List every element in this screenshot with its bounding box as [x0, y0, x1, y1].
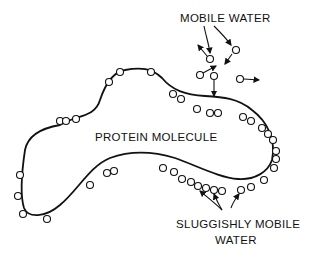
- sluggish-water-label-line1: SLUGGISHLY MOBILE: [176, 218, 300, 230]
- protein-water-diagram: MOBILE WATER PROTEIN MOLECULE SLUGGISHLY…: [0, 0, 318, 266]
- motion-arrows: [198, 45, 259, 96]
- sluggish-water-label-line2: WATER: [215, 234, 257, 246]
- label-pointers: [200, 26, 239, 210]
- bound-water-molecules: [15, 69, 280, 223]
- mobile-water-label: MOBILE WATER: [180, 12, 271, 24]
- protein-molecule-label: PROTEIN MOLECULE: [95, 131, 217, 143]
- diagram-canvas: MOBILE WATER PROTEIN MOLECULE SLUGGISHLY…: [0, 0, 318, 266]
